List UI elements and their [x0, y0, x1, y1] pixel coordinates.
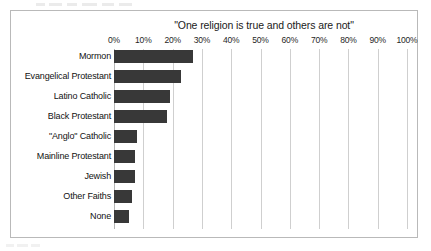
chart-frame: "One religion is true and others are not… — [10, 10, 418, 238]
category-label-0: Mormon — [19, 51, 111, 61]
x-tick-label-0: 0% — [108, 35, 120, 45]
x-tick-label-9: 90% — [369, 35, 385, 45]
bar-5 — [114, 150, 135, 163]
chart-title: "One religion is true and others are not… — [114, 19, 414, 31]
bar-row — [114, 69, 407, 89]
x-tick-label-3: 30% — [194, 35, 210, 45]
bar-2 — [114, 90, 170, 103]
bar-series — [114, 49, 407, 229]
scan-artifact-top — [36, 1, 144, 7]
bar-0 — [114, 50, 193, 63]
category-label-3: Black Protestant — [19, 111, 111, 121]
plot-area — [114, 49, 407, 229]
category-label-7: Other Faiths — [19, 191, 111, 201]
screenshot-root: "One religion is true and others are not… — [0, 0, 431, 251]
bar-row — [114, 189, 407, 209]
bar-row — [114, 49, 407, 69]
bar-8 — [114, 210, 129, 223]
bar-4 — [114, 130, 137, 143]
bar-6 — [114, 170, 135, 183]
bar-1 — [114, 70, 181, 83]
category-label-8: None — [19, 211, 111, 221]
bar-row — [114, 109, 407, 129]
x-tick-label-2: 20% — [164, 35, 180, 45]
x-tick-label-4: 40% — [223, 35, 239, 45]
category-label-6: Jewish — [19, 171, 111, 181]
bar-row — [114, 149, 407, 169]
bar-3 — [114, 110, 167, 123]
bar-row — [114, 169, 407, 189]
x-tick-label-10: 100% — [397, 35, 418, 45]
bar-row — [114, 209, 407, 229]
category-label-1: Evangelical Protestant — [19, 71, 111, 81]
scan-artifact-bottom — [6, 243, 46, 249]
x-tick-label-7: 70% — [311, 35, 327, 45]
category-label-5: Mainline Protestant — [19, 151, 111, 161]
x-axis-tick-labels: 0%10%20%30%40%50%60%70%80%90%100% — [114, 35, 407, 47]
category-label-2: Latino Catholic — [19, 91, 111, 101]
category-label-4: "Anglo" Catholic — [19, 131, 111, 141]
bar-row — [114, 89, 407, 109]
x-tick-label-5: 50% — [252, 35, 268, 45]
x-tick-label-8: 80% — [340, 35, 356, 45]
x-tick-label-6: 60% — [282, 35, 298, 45]
x-tick-label-1: 10% — [135, 35, 151, 45]
gridline-10 — [407, 49, 408, 229]
y-axis-category-labels: MormonEvangelical ProtestantLatino Catho… — [19, 49, 111, 229]
bar-row — [114, 129, 407, 149]
bar-7 — [114, 190, 132, 203]
